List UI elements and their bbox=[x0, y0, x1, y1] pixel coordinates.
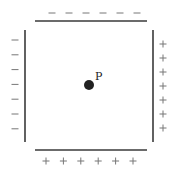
plus-sign-icon bbox=[112, 158, 119, 165]
plus-sign-icon bbox=[160, 69, 167, 76]
charged-plates-diagram: P bbox=[0, 0, 172, 175]
point-p-label: P bbox=[95, 70, 103, 83]
plus-sign-icon bbox=[160, 83, 167, 90]
bottom-plate-charges bbox=[43, 158, 137, 165]
left-plate-charges bbox=[12, 40, 19, 129]
plus-sign-icon bbox=[43, 158, 50, 165]
plus-sign-icon bbox=[160, 125, 167, 132]
plus-sign-icon bbox=[95, 158, 102, 165]
plus-sign-icon bbox=[160, 55, 167, 62]
plus-sign-icon bbox=[130, 158, 137, 165]
right-plate-charges bbox=[160, 41, 167, 132]
plus-sign-icon bbox=[77, 158, 84, 165]
plus-sign-icon bbox=[160, 111, 167, 118]
point-p-dot bbox=[84, 80, 94, 90]
plus-sign-icon bbox=[160, 97, 167, 104]
plus-sign-icon bbox=[60, 158, 67, 165]
plus-sign-icon bbox=[160, 41, 167, 48]
